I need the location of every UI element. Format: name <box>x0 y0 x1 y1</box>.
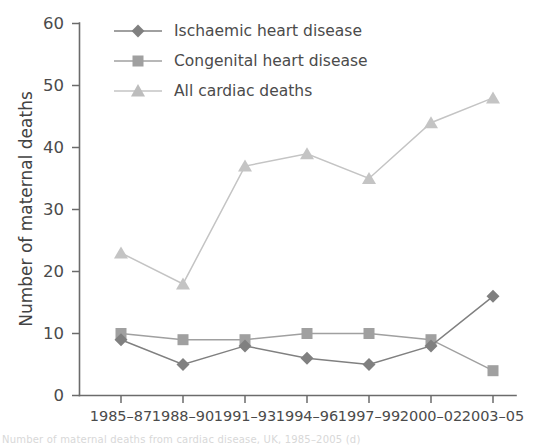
y-tick-label-60: 60 <box>43 14 64 33</box>
legend-label-all-cardiac: All cardiac deaths <box>174 82 312 100</box>
x-axis-ticks: 1985–87 1988–90 1991–93 1994–96 1997–99 … <box>90 396 525 425</box>
x-tick-label-1: 1988–90 <box>152 408 215 424</box>
triangle-marker-2003–05 <box>486 91 500 103</box>
y-tick-label-10: 10 <box>43 324 64 343</box>
y-tick-label-40: 40 <box>43 138 64 157</box>
square-marker-1997–99 <box>364 328 375 339</box>
x-tick-label-4: 1997–99 <box>338 408 401 424</box>
y-axis-title: Number of maternal deaths <box>16 91 36 327</box>
y-tick-label-30: 30 <box>43 200 64 219</box>
x-tick-label-0: 1985–87 <box>90 408 153 424</box>
x-tick-label-5: 2000–02 <box>400 408 463 424</box>
series-line <box>121 98 493 284</box>
legend: Ischaemic heart disease Congenital heart… <box>114 22 368 100</box>
triangle-marker-1994–96 <box>300 147 314 159</box>
figure-caption: Number of maternal deaths from cardiac d… <box>0 433 550 446</box>
y-tick-label-0: 0 <box>54 386 65 405</box>
square-marker-1988–90 <box>178 334 189 345</box>
square-marker-2003–05 <box>488 365 499 376</box>
square-icon <box>133 56 144 67</box>
series-all-cardiac-deaths <box>114 91 500 289</box>
legend-item-all-cardiac-deaths[interactable]: All cardiac deaths <box>114 82 312 100</box>
triangle-marker-1988–90 <box>176 277 190 289</box>
y-tick-label-20: 20 <box>43 262 64 281</box>
diamond-marker-1994–96 <box>301 352 314 365</box>
diamond-marker-1997–99 <box>363 358 376 371</box>
y-axis-ticks: 0 10 20 30 40 50 60 <box>43 14 80 405</box>
diamond-icon <box>132 25 145 38</box>
x-tick-label-2: 1991–93 <box>214 408 277 424</box>
y-tick-label-50: 50 <box>43 76 64 95</box>
legend-label-congenital: Congenital heart disease <box>174 52 368 70</box>
triangle-marker-1985–87 <box>114 246 128 258</box>
square-marker-1994–96 <box>302 328 313 339</box>
x-tick-label-6: 2003–05 <box>462 408 525 424</box>
axes <box>80 23 517 396</box>
line-chart: 0 10 20 30 40 50 60 1985–87 1988–90 1991… <box>0 0 550 446</box>
triangle-marker-2000–02 <box>424 116 438 128</box>
x-tick-label-3: 1994–96 <box>276 408 339 424</box>
legend-item-congenital-heart-disease[interactable]: Congenital heart disease <box>114 52 368 70</box>
legend-item-ischaemic-heart-disease[interactable]: Ischaemic heart disease <box>114 22 362 40</box>
diamond-marker-1988–90 <box>177 358 190 371</box>
legend-label-ischaemic: Ischaemic heart disease <box>174 22 362 40</box>
series-layer <box>114 91 500 376</box>
chart-figure: 0 10 20 30 40 50 60 1985–87 1988–90 1991… <box>0 0 550 446</box>
